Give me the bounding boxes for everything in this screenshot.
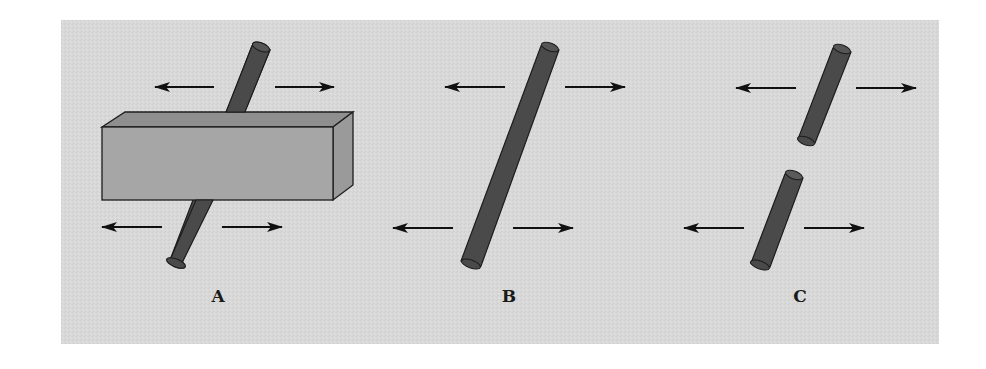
- panel-label-b: B: [502, 286, 516, 306]
- figure-canvas: A B C: [0, 0, 986, 369]
- block-icon: [102, 112, 353, 200]
- panel-label-c: C: [793, 286, 807, 306]
- panel-label-a: A: [210, 286, 225, 306]
